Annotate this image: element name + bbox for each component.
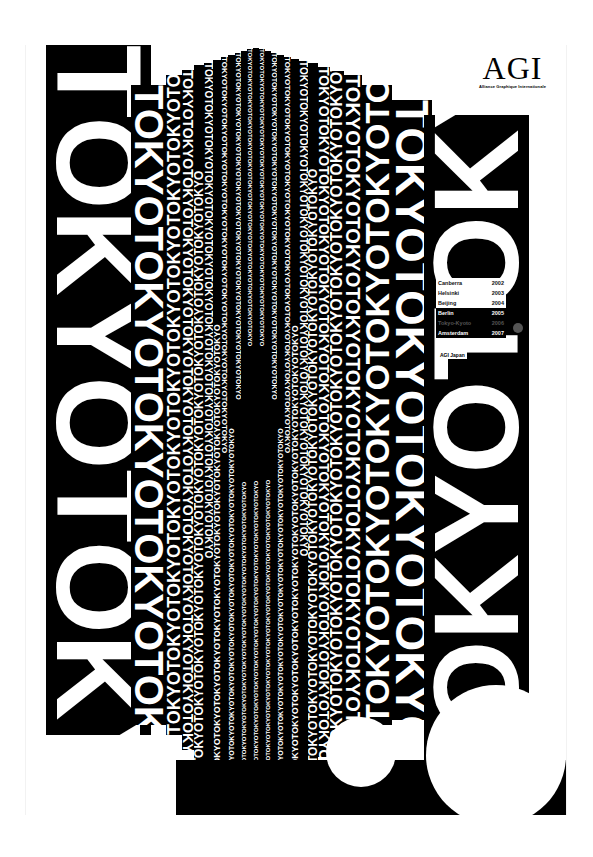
type-column: TOKYOTOKYOTOKYOTOKYOTOKYOTOKYOTOKYOTOKYO… xyxy=(291,59,299,771)
type-column: TOKYOTOKYOTOKYOTOKYOTOKYOTOKYOTOKYOTOKYO… xyxy=(221,57,228,772)
tokyo-kyoto-text: TOKYOTOKYOTOKYOTOKYOTOKYOTOKYOTOKYOTOKYO… xyxy=(344,75,362,745)
poster: TOKYOTOKYOTOKYOTOKYOTOKYOTOKYOTOKYOTOKYO… xyxy=(25,45,567,815)
logo-subtitle: Alliance Graphique Internationale xyxy=(479,84,546,89)
type-column: TOKYOTOKYOTOKYOTOKYOTOKYOTOKYOTOKYOTOKYO… xyxy=(308,63,318,763)
type-column: TOKYOTOKYOTOKYOTOKYOTOKYOTOKYOTOKYOTOKYO… xyxy=(228,55,235,775)
type-column: TOKYOTOKYOTOKYOTOKYOTOKYOTOKYOTOKYOTOKYO… xyxy=(344,75,362,745)
type-column: TOKYOTOKYOTOKYOTOKYOTOKYOTOKYOTOKYOTOKYO… xyxy=(194,65,204,765)
type-column: TOKYOTOKYOTOKYOTOKYOTOKYOTOKYOTOKYOTOKYO… xyxy=(213,60,221,770)
congress-row: Tokyo-Kyoto2006 xyxy=(436,318,506,328)
tokyo-kyoto-text: TOKYOTOKYOTOKYOTOKYOTOKYOTOKYOTOKYOTOKYO… xyxy=(330,71,344,751)
decorative-circle xyxy=(326,717,396,787)
tokyo-kyoto-text: TOKYOTOKYOTOKYOTOKYOTOKYOTOKYOTOKYOTOKYO… xyxy=(362,85,392,725)
tokyo-kyoto-text: TOKYOTOKYOTOKYOTOKYOTOKYOTOKYOTOKYOTOKYO… xyxy=(308,169,318,763)
tokyo-kyoto-text: TOKYOTOKYOTOKYOTOKYOTOKYOTOKYOTOKYOTOKYO… xyxy=(228,428,235,775)
congress-row: Beijing2004 xyxy=(436,298,506,308)
city-year: 2005 xyxy=(492,308,504,318)
city-year: 2006 xyxy=(492,318,504,328)
tokyo-kyoto-text: TOKYOTOKYOTOKYOTOKYOTOKYOTOKYOTOKYOTOKYO… xyxy=(221,57,228,453)
city-year: 2007 xyxy=(492,328,504,338)
accent-dot xyxy=(513,323,523,333)
type-column: TOKYOTOKYOTOKYOTOKYOTOKYOTOKYOTOKYOTOKYO… xyxy=(299,61,308,767)
type-column: TOKYOTOKYOTOKYOTOKYOTOKYOTOKYOTOKYOTOKYO… xyxy=(330,71,344,751)
city-name: Beijing xyxy=(438,298,456,308)
type-column: TOKYOTOKYOTOKYOTOKYOTOKYOTOKYOTOKYOTOKYO… xyxy=(284,57,291,773)
tokyo-kyoto-text: TOKYOTOKYOTOKYOTOKYOTOKYOTOKYOTOKYOTOKYO… xyxy=(291,325,299,771)
agi-logo: AGI Alliance Graphique Internationale xyxy=(479,53,546,89)
type-column: TOKYOTOKYOTOKYOTOKYOTOKYOTOKYOTOKYOTOKYO… xyxy=(362,85,392,725)
tokyo-kyoto-text: TOKYOTOKYOTOKYOTOKYOTOKYOTOKYOTOKYOTOKYO… xyxy=(182,70,194,750)
type-column: TOKYOTOKYOTOKYOTOKYOTOKYOTOKYOTOKYOTOKYO… xyxy=(277,55,284,775)
type-column: TOKYOTOKYOTOKYOTOKYOTOKYOTOKYOTOKYOTOKYO… xyxy=(204,63,213,768)
city-year: 2004 xyxy=(492,298,504,308)
city-year: 2003 xyxy=(492,288,504,298)
type-column: TOKYOTOKYOTOKYOTOKYOTOKYOTOKYOTOKYOTOKYO… xyxy=(182,70,194,750)
type-column: TOKYOTOKYOTOKYOTOKYOTOKYOTOKYOTOKYOTOKYO… xyxy=(166,75,182,735)
city-name: Helsinki xyxy=(438,288,459,298)
tokyo-kyoto-text: TOKYOTOKYOTOKYOTOKYOTOKYOTOKYOTOKYOTOKYO… xyxy=(204,63,213,558)
congress-list: Canberra2002 Helsinki2003 Beijing2004 Be… xyxy=(436,278,506,338)
tokyo-kyoto-text: TOKYOTOKYOTOKYOTOKYOTOKYOTOKYOTOKYOTOKYO… xyxy=(299,61,308,556)
city-name: Canberra xyxy=(438,278,462,288)
congress-row: Helsinki2003 xyxy=(436,288,506,298)
tokyo-kyoto-text: TOKYOTOKYOTOKYOTOKYOTOKYOTOKYOTOKYOTOKYO… xyxy=(284,57,291,453)
congress-row: Berlin2005 xyxy=(436,308,506,318)
type-column: TOKYOTOKYOTOKYOTOKYOTOKYOTOKYOTOKYOTOKYO… xyxy=(131,85,167,725)
city-name: Tokyo-Kyoto xyxy=(438,318,471,328)
tokyo-kyoto-text: TOKYOTOKYOTOKYOTOKYOTOKYOTOKYOTOKYOTOKYO… xyxy=(213,324,221,770)
type-column: TOKYOTOKYOTOKYOTOKYOTOKYOTOKYOTOKYOTOKYO… xyxy=(318,67,330,757)
city-name: Berlin xyxy=(438,308,454,318)
tokyo-kyoto-text: TOKYOTOKYOTOKYOTOKYOTOKYOTOKYOTOKYOTOKYO… xyxy=(166,75,182,735)
tokyo-kyoto-text: TOKYOTOKYOTOKYOTOKYOTOKYOTOKYOTOKYOTOKYO… xyxy=(194,171,204,765)
city-year: 2002 xyxy=(492,278,504,288)
organizer-label: AGI Japan xyxy=(438,351,467,359)
congress-row: Canberra2002 xyxy=(436,278,506,288)
logo-mark: AGI xyxy=(479,53,546,83)
tokyo-kyoto-text: TOKYOTOKYOTOKYOTOKYOTOKYOTOKYOTOKYOTOKYO… xyxy=(318,67,330,757)
tokyo-kyoto-text: TOKYOTOKYOTOKYOTOKYOTOKYOTOKYOTOKYOTOKYO… xyxy=(277,428,284,775)
tokyo-kyoto-text: TOKYOTOKYOTOKYOTOKYOTOKYOTOKYOTOKYOTOKYO… xyxy=(131,85,167,725)
city-name: Amsterdam xyxy=(438,328,468,338)
congress-row: Amsterdam2007 xyxy=(436,328,506,338)
decorative-circle xyxy=(426,685,566,815)
